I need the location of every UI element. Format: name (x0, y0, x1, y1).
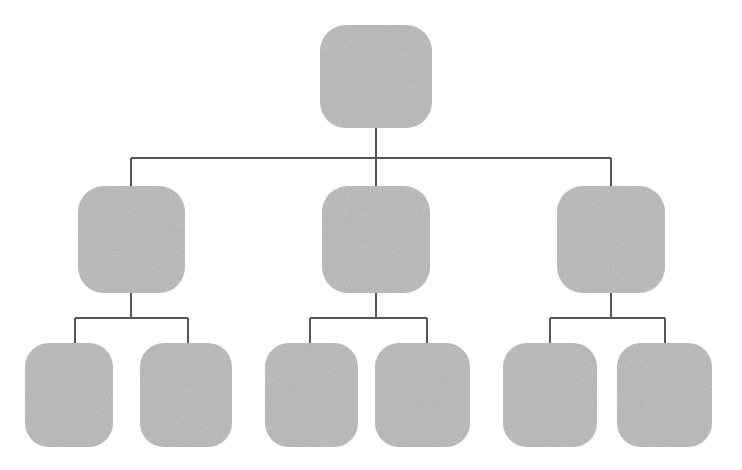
node-shape-leaf-6 (617, 343, 712, 447)
node-root[interactable] (320, 25, 432, 128)
node-branch-2[interactable] (322, 186, 430, 293)
node-shape-branch-2 (322, 186, 430, 293)
node-leaf-2[interactable] (140, 343, 232, 447)
node-shape-leaf-1 (25, 343, 113, 447)
node-shape-leaf-5 (503, 343, 597, 447)
node-shape-leaf-4 (375, 343, 470, 447)
node-leaf-4[interactable] (375, 343, 470, 447)
tree-diagram (0, 0, 742, 470)
node-shape-leaf-2 (140, 343, 232, 447)
node-leaf-6[interactable] (617, 343, 712, 447)
node-branch-3[interactable] (557, 186, 665, 293)
node-leaf-5[interactable] (503, 343, 597, 447)
node-shape-branch-3 (557, 186, 665, 293)
node-leaf-3[interactable] (265, 343, 358, 447)
node-shape-branch-1 (78, 186, 185, 293)
node-shape-root (320, 25, 432, 128)
node-shape-leaf-3 (265, 343, 358, 447)
node-leaf-1[interactable] (25, 343, 113, 447)
diagram-canvas (0, 0, 742, 470)
node-branch-1[interactable] (78, 186, 185, 293)
